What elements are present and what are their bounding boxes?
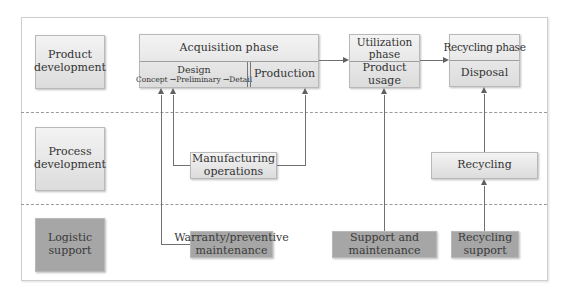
- connector-utilization-recycling: [420, 60, 443, 61]
- design-step-preliminary: Preliminary: [176, 75, 221, 84]
- arrow-right-icon: [343, 57, 349, 63]
- row-label-logistic-support: Logistic support: [35, 218, 105, 272]
- row-separator-2: [21, 204, 547, 205]
- arrow-up-icon: [170, 88, 176, 94]
- product-usage-cell: Product usage: [350, 62, 419, 87]
- connector-warranty-design-vertical: [161, 95, 162, 245]
- row-label-line: development: [34, 62, 106, 75]
- row-label-line: support: [48, 245, 92, 258]
- acquisition-phase-title: Acquisition phase: [140, 35, 318, 61]
- box-line: Manufacturing: [192, 153, 275, 166]
- connector-manufacturing-production-vertical: [305, 95, 306, 166]
- connector-manufacturing-production-horizontal: [277, 165, 306, 166]
- box-line: operations: [204, 166, 263, 179]
- box-line: Recycling: [458, 232, 513, 245]
- recycling-support-box: Recycling support: [451, 231, 519, 258]
- row-label-process-development: Process development: [35, 127, 105, 191]
- design-cell: Design Concept →Preliminary →Detail: [140, 62, 248, 87]
- disposal-cell: Disposal: [450, 61, 519, 86]
- arrow-up-icon: [302, 88, 308, 94]
- connector-warranty-design-horizontal: [161, 244, 190, 245]
- arrow-up-icon: [481, 87, 487, 93]
- manufacturing-operations-box: Manufacturing operations: [190, 152, 277, 179]
- connector-recycling-disposal: [484, 94, 485, 152]
- recycling-phase-title: Recycling phase: [450, 35, 519, 60]
- connector-recyclingsupport-recycling: [484, 186, 485, 231]
- box-line: support: [463, 245, 506, 258]
- row-label-product-development: Product development: [35, 35, 105, 89]
- box-line: maintenance: [349, 245, 421, 258]
- support-maintenance-box: Support and maintenance: [332, 231, 437, 258]
- connector-manufacturing-design-horizontal: [173, 165, 190, 166]
- design-step-concept: Concept: [136, 75, 168, 84]
- utilization-phase-title: Utilization phase: [350, 35, 419, 61]
- arrow-up-icon: [381, 88, 387, 94]
- acquisition-phase-box: Acquisition phase Design Concept →Prelim…: [139, 34, 319, 88]
- utilization-title-line: phase: [369, 48, 400, 60]
- arrow-up-icon: [158, 88, 164, 94]
- row-label-line: development: [34, 159, 106, 172]
- recycling-phase-box: Recycling phase Disposal: [449, 34, 520, 87]
- recycling-box: Recycling: [431, 152, 538, 179]
- design-steps: Concept →Preliminary →Detail: [136, 76, 252, 85]
- arrow-up-icon: [481, 179, 487, 185]
- connector-acquisition-utilization: [319, 60, 343, 61]
- utilization-title-line: Utilization: [357, 36, 413, 48]
- row-separator-1: [21, 112, 547, 113]
- warranty-maintenance-box: Warranty/preventive maintenance: [190, 231, 273, 258]
- box-line: maintenance: [196, 245, 268, 258]
- box-line: Warranty/preventive: [174, 232, 289, 245]
- connector-manufacturing-design-vertical: [173, 95, 174, 166]
- production-cell: Production: [251, 62, 318, 87]
- utilization-phase-box: Utilization phase Product usage: [349, 34, 420, 88]
- connector-support-usage: [384, 95, 385, 231]
- arrow-right-icon: [443, 57, 449, 63]
- box-line: Support and: [350, 232, 419, 245]
